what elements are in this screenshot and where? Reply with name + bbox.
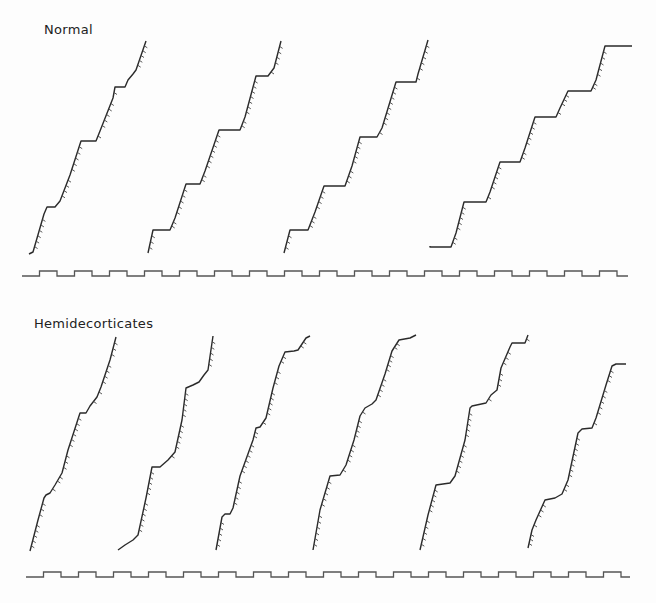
cumulative-trace	[216, 336, 310, 550]
timer-square-wave	[22, 271, 628, 276]
cumulative-trace	[148, 41, 281, 253]
reinforcement-ticks	[314, 344, 400, 547]
cumulative-trace	[284, 40, 428, 253]
timer-square-wave	[26, 572, 630, 577]
reinforcement-ticks	[453, 52, 607, 245]
normal-panel	[22, 40, 632, 276]
reinforcement-ticks	[149, 46, 282, 249]
reinforcement-ticks	[421, 339, 529, 546]
cumulative-records-chart	[0, 0, 656, 603]
reinforcement-ticks	[139, 342, 215, 532]
cumulative-trace	[29, 41, 146, 254]
reinforcement-ticks	[529, 371, 614, 546]
hemidecorticates-panel	[26, 335, 630, 577]
cumulative-trace	[313, 335, 416, 550]
cumulative-trace	[30, 337, 116, 551]
cumulative-trace	[118, 336, 213, 550]
cumulative-trace	[420, 335, 528, 550]
cumulative-trace	[528, 364, 626, 548]
cumulative-trace	[430, 46, 632, 247]
reinforcement-ticks	[31, 343, 117, 548]
reinforcement-ticks	[217, 342, 306, 547]
